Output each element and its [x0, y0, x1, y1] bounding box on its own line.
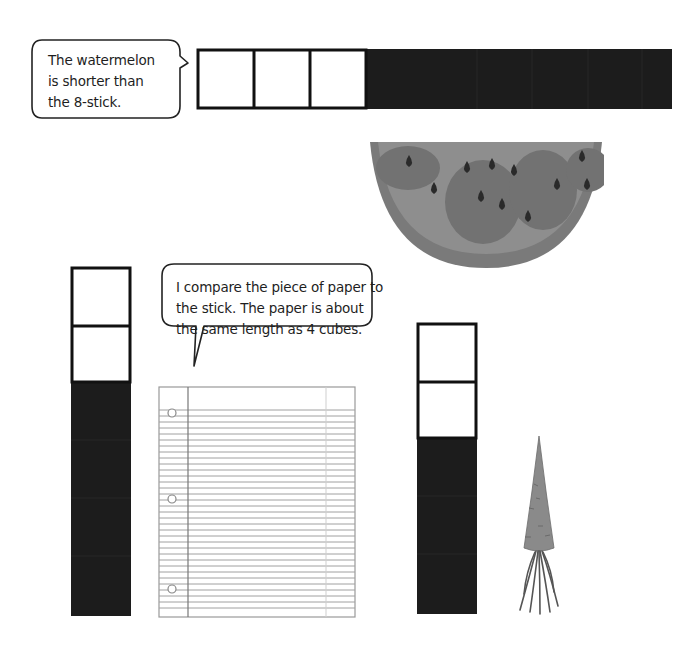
cube-stick-vertical-6 — [70, 266, 132, 618]
watermelon-bubble-text: The watermelon is shorter than the 8-sti… — [48, 50, 155, 113]
bubble-line: The watermelon — [48, 50, 155, 71]
bubble-line: I compare the piece of paper to — [176, 277, 383, 298]
bubble-line: the 8-stick. — [48, 92, 155, 113]
lined-paper-icon — [158, 386, 356, 618]
carrot-icon — [516, 434, 560, 616]
paper-bubble-text: I compare the piece of paper to the stic… — [176, 277, 383, 340]
cube-stick-vertical-5 — [416, 322, 478, 616]
bubble-line: is shorter than — [48, 71, 155, 92]
bubble-line: the stick. The paper is about — [176, 298, 383, 319]
bubble-line: the same length as 4 cubes. — [176, 319, 383, 340]
watermelon-icon — [368, 140, 604, 270]
cube-stick-horizontal-8 — [196, 48, 674, 110]
